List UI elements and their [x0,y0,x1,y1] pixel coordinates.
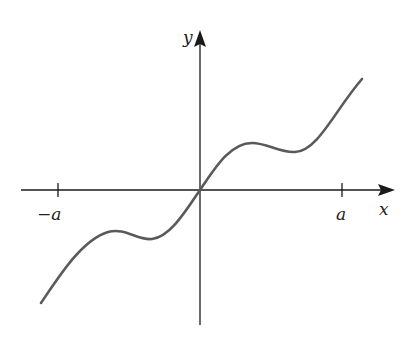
y-axis-label: y [182,27,193,47]
tick-label-neg-a: −a [37,204,61,224]
tick-label-a: a [336,204,346,224]
x-axis-label: x [379,199,389,219]
function-graph: −a a x y [0,0,416,343]
curve [41,79,362,303]
